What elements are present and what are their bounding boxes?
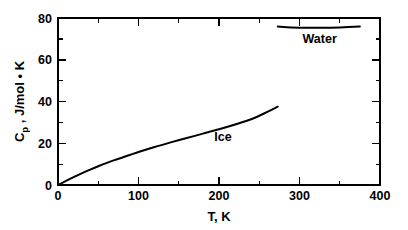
y-tick-label-4: 80 — [38, 12, 52, 26]
y-axis-ticks-left — [58, 18, 66, 185]
y-axis-title-rest: , J/mol • K — [12, 60, 27, 127]
y-axis-title: Cp , J/mol • K — [12, 60, 30, 142]
x-axis-tick-labels: 0 100 200 300 400 — [55, 189, 391, 203]
y-axis-tick-labels: 0 20 40 60 80 — [38, 12, 52, 193]
y-axis-ticks-right — [372, 18, 380, 185]
ice-curve — [58, 107, 278, 185]
y-tick-label-2: 40 — [38, 95, 52, 109]
x-tick-label-3: 300 — [289, 189, 310, 203]
chart-svg: 0 100 200 300 400 0 20 40 60 80 Cp , J/m… — [0, 0, 408, 230]
water-series-label: Water — [302, 32, 336, 46]
x-tick-label-2: 200 — [209, 189, 230, 203]
y-tick-label-1: 20 — [38, 137, 52, 151]
x-axis-title: T, K — [207, 209, 231, 224]
heat-capacity-chart-figure: 0 100 200 300 400 0 20 40 60 80 Cp , J/m… — [0, 0, 408, 230]
svg-text:Cp , J/mol • K: Cp , J/mol • K — [12, 60, 30, 142]
x-tick-label-1: 100 — [128, 189, 149, 203]
x-axis-ticks-top — [58, 18, 380, 26]
x-tick-label-0: 0 — [55, 189, 62, 203]
y-tick-label-0: 0 — [45, 179, 52, 193]
y-tick-label-3: 60 — [38, 53, 52, 67]
x-axis-ticks-bottom — [58, 177, 380, 185]
water-curve — [278, 27, 360, 28]
x-tick-label-4: 400 — [370, 189, 391, 203]
ice-series-label: Ice — [214, 130, 231, 144]
